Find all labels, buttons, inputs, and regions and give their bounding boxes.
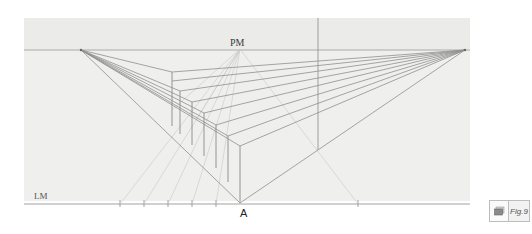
measuring-construction-lines <box>120 49 358 204</box>
box-vertical-edges <box>172 72 240 203</box>
ground-line-label: LM <box>34 192 48 201</box>
ground-ticks <box>120 200 358 207</box>
point-a-label: A <box>240 208 247 219</box>
right-vanishing-point <box>464 49 466 51</box>
copy-icon[interactable] <box>490 201 509 221</box>
measuring-point-label: PM <box>230 38 244 48</box>
figure-badge[interactable]: Fig.9 <box>489 200 530 222</box>
figure-number-label: Fig.9 <box>509 201 529 221</box>
left-vanishing-point <box>80 49 82 51</box>
perspective-drawing <box>0 0 532 234</box>
